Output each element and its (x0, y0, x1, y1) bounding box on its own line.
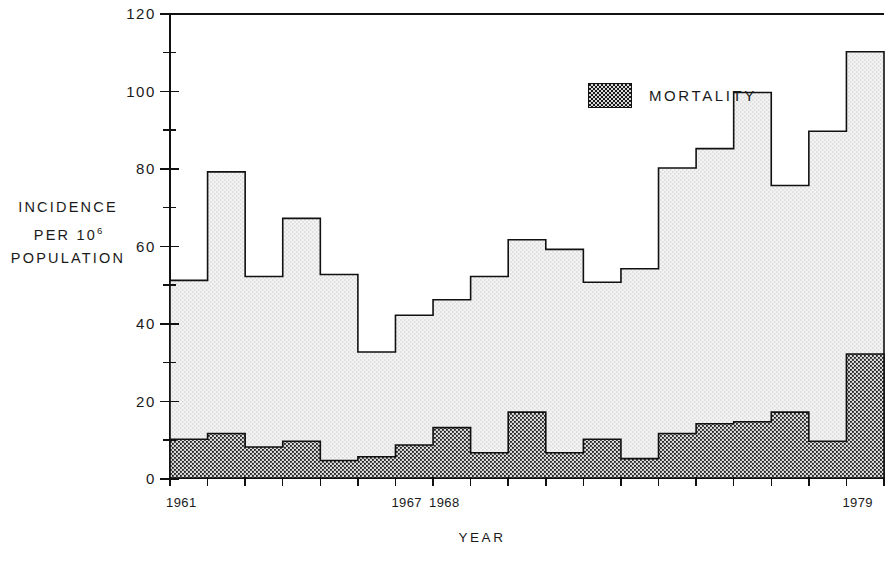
y-tick-10 (163, 439, 170, 441)
x-axis-title-text: YEAR (458, 530, 505, 545)
y-axis-title-line-1: INCIDENCE (0, 196, 136, 219)
y-tick-inner-110 (170, 52, 176, 54)
y-tick-inner-20 (170, 401, 179, 403)
plot-area: 020406080100120 1961196719681979 MORTALI… (170, 13, 884, 478)
x-tick-1965 (320, 477, 322, 486)
x-tick-label-1968: 1968 (429, 495, 460, 510)
x-tick-1978 (808, 477, 810, 486)
y-tick-20 (160, 401, 170, 403)
y-tick-label-0: 0 (146, 470, 156, 487)
y-tick-inner-10 (170, 439, 176, 441)
x-tick-1970 (507, 477, 509, 486)
x-tick-1966 (357, 477, 359, 486)
x-tick-1969 (470, 477, 472, 486)
series-layer (170, 13, 884, 478)
y-tick-inner-90 (170, 129, 176, 131)
legend-swatch-mortality (588, 83, 632, 108)
y-tick-inner-50 (170, 284, 176, 286)
y-axis-title-exponent: 6 (97, 225, 102, 236)
y-tick-inner-100 (170, 91, 179, 93)
y-axis-title-line-2: PER 106 (0, 219, 136, 247)
x-tick-1961 (169, 477, 171, 486)
x-tick-1968 (432, 477, 434, 486)
y-tick-inner-40 (170, 323, 179, 325)
x-tick-1975 (695, 477, 697, 486)
y-axis-title-line-3: POPULATION (0, 247, 136, 270)
y-tick-70 (163, 207, 170, 209)
x-tick-1967 (395, 477, 397, 486)
x-tick-1962 (207, 477, 209, 486)
y-tick-120 (160, 13, 170, 15)
x-tick-1976 (733, 477, 735, 486)
y-tick-30 (163, 362, 170, 364)
x-axis-title: YEAR (0, 530, 884, 545)
y-tick-inner-30 (170, 362, 176, 364)
y-tick-60 (160, 246, 170, 248)
step-area-svg (170, 13, 884, 478)
x-tick-1964 (282, 477, 284, 486)
x-tick-1977 (771, 477, 773, 486)
y-tick-80 (160, 168, 170, 170)
x-tick-1973 (620, 477, 622, 486)
y-tick-inner-0 (170, 478, 179, 480)
y-tick-inner-80 (170, 168, 179, 170)
x-tick-label-1961: 1961 (166, 495, 197, 510)
x-tick-1974 (658, 477, 660, 486)
y-tick-inner-60 (170, 246, 179, 248)
legend: MORTALITY (588, 83, 757, 108)
x-tick-label-1979: 1979 (842, 495, 873, 510)
y-tick-label-20: 20 (136, 392, 156, 409)
x-tick-label-1967: 1967 (391, 495, 422, 510)
y-tick-label-40: 40 (136, 315, 156, 332)
y-tick-inner-70 (170, 207, 176, 209)
y-tick-label-80: 80 (136, 160, 156, 177)
y-tick-inner-120 (170, 13, 179, 15)
y-axis-title-line-2-text: PER 10 (34, 227, 97, 243)
y-tick-label-60: 60 (136, 237, 156, 254)
y-tick-50 (163, 284, 170, 286)
y-tick-40 (160, 323, 170, 325)
y-axis-title: INCIDENCE PER 106 POPULATION (0, 196, 136, 270)
y-tick-label-100: 100 (126, 82, 156, 99)
y-tick-90 (163, 129, 170, 131)
x-tick-1963 (244, 477, 246, 486)
x-tick-1972 (583, 477, 585, 486)
y-tick-110 (163, 52, 170, 54)
y-tick-100 (160, 91, 170, 93)
legend-label-mortality: MORTALITY (649, 87, 757, 104)
y-tick-label-120: 120 (126, 5, 156, 22)
x-tick-1971 (545, 477, 547, 486)
x-tick-1979 (846, 477, 848, 486)
